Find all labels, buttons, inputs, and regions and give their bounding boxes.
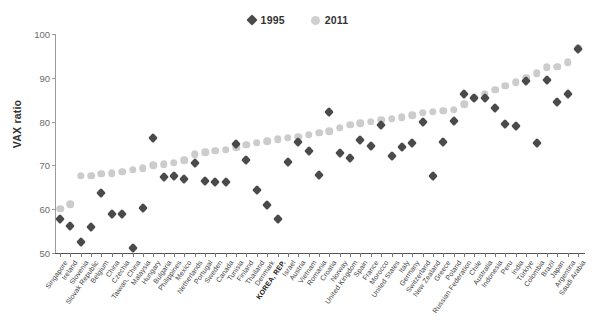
x-tick-mark (60, 253, 61, 257)
x-tick-mark (557, 253, 558, 257)
data-point-2011 (263, 138, 271, 146)
data-point-2011 (181, 156, 189, 164)
data-point-2011 (201, 149, 209, 157)
data-point-1995 (367, 142, 374, 149)
data-point-1995 (512, 122, 519, 129)
y-axis-title: VAX ratio (11, 79, 23, 169)
data-point-2011 (367, 118, 375, 126)
x-tick-mark (485, 253, 486, 257)
data-point-2011 (284, 134, 292, 142)
diamond-marker-icon (246, 14, 257, 25)
x-tick-mark (91, 253, 92, 257)
data-point-2011 (543, 64, 551, 72)
x-tick-mark (288, 253, 289, 257)
data-point-2011 (253, 139, 261, 147)
x-tick-mark (309, 253, 310, 257)
x-tick-mark (257, 253, 258, 257)
data-point-1995 (347, 155, 354, 162)
legend-item-1995: 1995 (248, 14, 285, 26)
data-point-1995 (264, 201, 271, 208)
data-point-1995 (316, 172, 323, 179)
data-point-1995 (108, 211, 115, 218)
data-point-2011 (77, 172, 85, 180)
data-point-2011 (429, 108, 437, 116)
data-point-1995 (119, 211, 126, 218)
data-point-1995 (554, 99, 561, 106)
data-point-2011 (408, 111, 416, 119)
x-tick-mark (101, 253, 102, 257)
data-point-2011 (398, 113, 406, 121)
data-point-1995 (98, 190, 105, 197)
x-tick-mark (81, 253, 82, 257)
x-tick-mark (133, 253, 134, 257)
x-tick-mark (267, 253, 268, 257)
data-point-2011 (274, 135, 282, 143)
data-point-1995 (202, 178, 209, 185)
data-point-1995 (284, 158, 291, 165)
data-point-2011 (554, 63, 562, 71)
y-tick-label: 100 (24, 29, 50, 40)
data-point-1995 (357, 137, 364, 144)
x-tick-mark (474, 253, 475, 257)
data-point-2011 (67, 201, 75, 209)
data-point-2011 (129, 166, 137, 174)
data-point-1995 (543, 77, 550, 84)
data-point-2011 (56, 205, 64, 213)
data-point-1995 (440, 139, 447, 146)
x-tick-mark (578, 253, 579, 257)
data-point-2011 (440, 107, 448, 115)
data-point-1995 (233, 140, 240, 147)
data-point-1995 (139, 205, 146, 212)
data-point-1995 (533, 139, 540, 146)
x-tick-mark (319, 253, 320, 257)
x-tick-mark (464, 253, 465, 257)
x-tick-mark (433, 253, 434, 257)
data-point-2011 (149, 162, 157, 170)
data-point-1995 (388, 153, 395, 160)
x-tick-mark (360, 253, 361, 257)
data-point-2011 (315, 129, 323, 137)
chart-legend: 1995 2011 (0, 14, 596, 26)
x-tick-mark (236, 253, 237, 257)
data-point-1995 (305, 147, 312, 154)
y-tick-label: 50 (24, 248, 50, 259)
data-point-2011 (212, 147, 220, 155)
x-tick-mark (443, 253, 444, 257)
x-tick-mark (516, 253, 517, 257)
x-tick-mark (505, 253, 506, 257)
data-point-2011 (357, 120, 365, 128)
y-tick-label: 70 (24, 160, 50, 171)
x-tick-mark (526, 253, 527, 257)
data-point-1995 (129, 244, 136, 251)
data-point-1995 (191, 160, 198, 167)
x-tick-mark (112, 253, 113, 257)
y-tick-label: 80 (24, 116, 50, 127)
data-point-2011 (512, 78, 520, 86)
data-point-1995 (170, 173, 177, 180)
x-tick-mark (371, 253, 372, 257)
data-point-1995 (295, 139, 302, 146)
data-point-1995 (409, 139, 416, 146)
x-tick-mark (392, 253, 393, 257)
x-tick-mark (184, 253, 185, 257)
legend-label-2011: 2011 (325, 14, 349, 26)
x-tick-mark (205, 253, 206, 257)
circle-marker-icon (311, 16, 320, 25)
data-point-1995 (419, 119, 426, 126)
y-tick-label: 60 (24, 204, 50, 215)
data-point-2011 (87, 172, 95, 180)
data-point-1995 (77, 238, 84, 245)
data-point-2011 (160, 160, 168, 168)
data-point-1995 (523, 78, 530, 85)
data-point-2011 (305, 131, 313, 139)
x-tick-mark (174, 253, 175, 257)
data-point-1995 (398, 144, 405, 151)
data-point-2011 (346, 121, 354, 129)
data-point-1995 (253, 186, 260, 193)
x-tick-mark (215, 253, 216, 257)
y-tick-label: 90 (24, 72, 50, 83)
data-point-1995 (471, 94, 478, 101)
x-tick-mark (423, 253, 424, 257)
data-point-1995 (429, 173, 436, 180)
x-tick-mark (278, 253, 279, 257)
